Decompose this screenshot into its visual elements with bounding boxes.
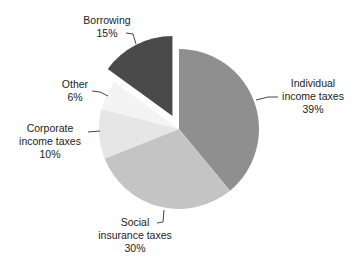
label-social-insurance-taxes: Social insurance taxes 30% bbox=[95, 216, 175, 255]
label-value: 6% bbox=[58, 91, 92, 104]
label-corporate-income-taxes: Corporate income taxes 10% bbox=[14, 122, 86, 161]
label-text: Other bbox=[58, 78, 92, 91]
label-text: Borrowing bbox=[82, 14, 132, 27]
label-value: 30% bbox=[95, 242, 175, 255]
leader-corporate bbox=[88, 131, 100, 132]
leader-individual bbox=[256, 97, 278, 100]
label-other: Other 6% bbox=[58, 78, 92, 104]
label-text: Corporate bbox=[14, 122, 86, 135]
label-text: Social bbox=[95, 216, 175, 229]
label-borrowing: Borrowing 15% bbox=[82, 14, 132, 40]
label-individual-income-taxes: Individual income taxes 39% bbox=[278, 77, 348, 116]
label-text: income taxes bbox=[14, 135, 86, 148]
leader-other bbox=[92, 91, 108, 96]
label-value: 10% bbox=[14, 148, 86, 161]
label-text: income taxes bbox=[278, 90, 348, 103]
label-text: insurance taxes bbox=[95, 229, 175, 242]
label-text: Individual bbox=[278, 77, 348, 90]
label-value: 39% bbox=[278, 103, 348, 116]
label-value: 15% bbox=[82, 27, 132, 40]
